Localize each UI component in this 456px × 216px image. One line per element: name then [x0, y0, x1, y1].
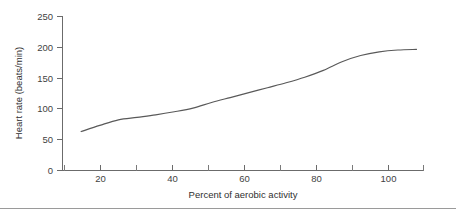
y-axis-tick-labels: 250 200 150 100 50 0	[37, 11, 53, 176]
x-tick-label-40: 40	[167, 173, 178, 184]
x-tick-label-60: 60	[239, 173, 250, 184]
x-axis-tick-labels: 20 40 60 80 100	[95, 173, 396, 184]
heart-rate-line-chart: 250 200 150 100 50 0 20 40	[0, 0, 456, 216]
x-tick-label-20: 20	[95, 173, 106, 184]
x-tick-label-100: 100	[381, 173, 397, 184]
x-tick-label-80: 80	[311, 173, 322, 184]
y-tick-label-150: 150	[37, 73, 53, 84]
y-axis-title: Heart rate (beats/min)	[13, 47, 24, 139]
y-tick-label-100: 100	[37, 103, 53, 114]
footer-divider	[0, 208, 456, 209]
y-tick-label-50: 50	[42, 134, 53, 145]
chart-figure: 250 200 150 100 50 0 20 40	[0, 0, 456, 216]
x-axis-title: Percent of aerobic activity	[189, 189, 298, 200]
series-line-heart-rate	[81, 49, 416, 131]
y-tick-label-250: 250	[37, 11, 53, 22]
x-axis-ticks	[101, 165, 389, 171]
y-tick-label-0: 0	[48, 165, 53, 176]
y-axis-ticks	[57, 17, 63, 171]
y-tick-label-200: 200	[37, 42, 53, 53]
